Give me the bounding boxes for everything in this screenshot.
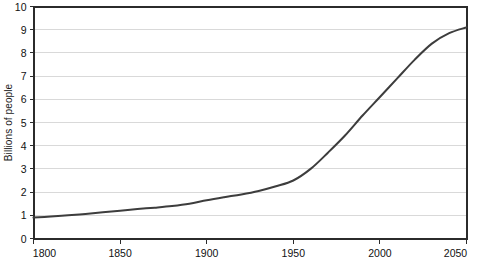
y-tick-label: 5: [21, 117, 27, 129]
gridlines-group: [34, 30, 467, 216]
x-tick-label: 1950: [282, 247, 306, 259]
x-tick-label: 2050: [444, 247, 468, 259]
y-tick-label: 3: [21, 163, 27, 175]
y-tick-label: 9: [21, 24, 27, 36]
y-tick-label: 10: [15, 1, 27, 13]
y-tick-label: 4: [21, 140, 27, 152]
population-chart: Billions of people 012345678910 18001850…: [0, 0, 480, 263]
x-tick-label: 1900: [195, 247, 219, 259]
y-tick-label: 8: [21, 47, 27, 59]
y-tick-group: 012345678910: [15, 1, 34, 245]
x-tick-label: 2000: [368, 247, 392, 259]
x-tick-label: 1800: [33, 247, 57, 259]
x-tick-group: 180018501900195020002050: [33, 239, 468, 259]
y-tick-label: 0: [21, 233, 27, 245]
y-tick-label: 7: [21, 70, 27, 82]
chart-plot-svg: 012345678910 180018501900195020002050: [0, 0, 480, 263]
x-tick-label: 1850: [108, 247, 132, 259]
y-tick-label: 6: [21, 93, 27, 105]
y-tick-label: 2: [21, 186, 27, 198]
y-tick-label: 1: [21, 209, 27, 221]
